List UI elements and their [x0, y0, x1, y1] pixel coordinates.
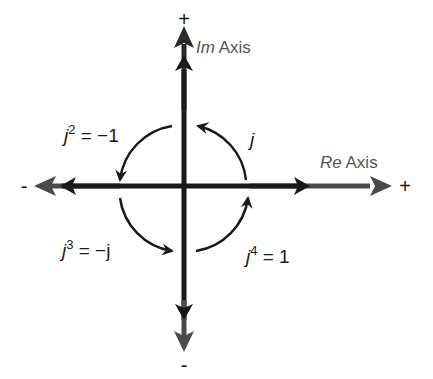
real-axis-label: Re Axis: [320, 153, 378, 172]
imaginary-negative-sign: -: [181, 354, 188, 376]
rotation-label-q1: j: [247, 129, 255, 150]
real-positive-sign: +: [399, 175, 411, 197]
rotation-label-q2: j2 = −1: [61, 122, 119, 146]
arc-q4-arrow-icon: [196, 198, 248, 251]
real-positive-arrow-icon: [370, 176, 392, 196]
arc-q3-arrow-icon: [120, 198, 172, 251]
real-axis: [34, 176, 392, 196]
imaginary-axis: [174, 26, 194, 352]
imaginary-axis-label: Im Axis: [196, 38, 251, 57]
imaginary-positive-sign: +: [178, 8, 190, 30]
arc-q1-arrow-icon: [198, 126, 246, 180]
real-negative-sign: -: [21, 175, 28, 197]
rotation-label-q3: j3 = −j: [59, 237, 110, 261]
rotation-label-q4: j4 = 1: [243, 243, 290, 267]
arc-q2-arrow-icon: [120, 126, 172, 180]
complex-plane-diagram: + - - + Im Axis Re Axis j j2 = −1 j3 = −…: [0, 0, 433, 379]
